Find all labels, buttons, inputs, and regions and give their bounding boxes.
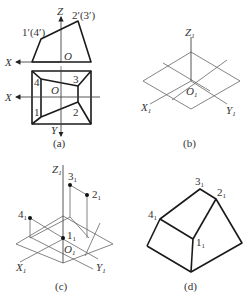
corner-edge-tr	[78, 71, 91, 86]
point-1-icon	[61, 236, 65, 240]
point-3-label: 31	[68, 170, 78, 184]
caption-d: (d)	[184, 280, 197, 293]
base-plane	[143, 52, 240, 109]
z1-label: Z1	[185, 26, 195, 40]
point-1-label: 11	[196, 236, 206, 250]
point-4-label: 41	[18, 208, 28, 222]
corner-edge-bl	[32, 117, 41, 124]
point-4-icon	[28, 216, 32, 220]
edge-4-1	[160, 219, 193, 239]
caption-b: (b)	[183, 137, 196, 150]
y1-label: Y1	[96, 261, 106, 275]
vertex-label-3: 3	[73, 73, 79, 85]
panel-d-axonometric-solid: 31 21 41 11 (d)	[147, 175, 242, 293]
z-axis-label: Z	[57, 5, 64, 17]
y-axis-label: Y	[51, 124, 59, 136]
edge-1-bottom	[191, 239, 193, 272]
origin-label: O	[64, 50, 72, 62]
x1-axis-line	[150, 81, 191, 104]
vertex-label-1: 1	[34, 106, 40, 118]
point-1-label: 11	[67, 229, 77, 243]
z1-label: Z1	[52, 163, 62, 177]
point-2-label: 21	[92, 188, 102, 202]
x1-label: X1	[140, 101, 151, 115]
grid-line	[30, 237, 93, 269]
edge-1-2	[193, 199, 216, 239]
vertex-label-2: 2	[73, 106, 79, 118]
point-2-icon	[85, 193, 89, 197]
point-3-label: 31	[195, 175, 205, 189]
vertex-label-2-3: 2′(3′)	[72, 9, 95, 22]
projection-diagram: Z X O 1′(4′) 2′(3′) X Y O 4 3 2 1 (a)	[0, 0, 248, 296]
panel-c-construction: Z1 31 21 41 11 O1 X1 Y1 (c)	[15, 163, 113, 293]
x-axis-label: X	[4, 56, 13, 68]
y1-label: Y1	[226, 104, 236, 118]
solid-outline	[147, 189, 242, 272]
vertex-label-1-4: 1′(4′)	[22, 26, 45, 39]
point-2-label: 21	[217, 186, 227, 200]
panel-b-axes: Z1 O1 X1 Y1 (b)	[140, 26, 240, 150]
x1-label: X1	[15, 261, 26, 275]
point-4-label: 41	[148, 208, 158, 222]
footprint	[30, 217, 89, 238]
origin-label: O	[51, 84, 59, 96]
point-3-icon	[68, 183, 72, 187]
vertex-label-4: 4	[34, 76, 40, 88]
x-axis-label: X	[4, 91, 13, 103]
grid-line	[172, 60, 227, 100]
caption-a: (a)	[53, 137, 66, 150]
panel-a-top-view: X Y O 4 3 2 1 (a)	[4, 66, 100, 150]
o1-label: O1	[186, 85, 197, 99]
corner-edge-br	[78, 102, 91, 124]
caption-c: (c)	[55, 280, 68, 293]
link-3-2	[70, 185, 87, 195]
panel-a-front-view: Z X O 1′(4′) 2′(3′)	[4, 5, 95, 68]
